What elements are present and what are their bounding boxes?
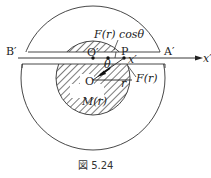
label-m-r: M(r) (81, 95, 107, 108)
label-x-prime-point: x′ (128, 53, 137, 66)
label-b-prime: B′ (6, 45, 17, 58)
leader-line-fcos2 (115, 52, 116, 58)
figure-caption: 図 5.24 (78, 160, 113, 171)
label-f-r-cos-theta: F(r) cosθ (93, 28, 144, 41)
label-theta: θ (104, 58, 111, 71)
figure-diagram: B′ A′ O′ P x′ x′ O θ r F(r) F(r) cosθ M(… (0, 0, 211, 178)
label-a-prime: A′ (163, 45, 175, 58)
label-o-prime: O′ (87, 46, 99, 59)
label-f-r: F(r) (135, 72, 157, 85)
label-x-prime-axis: x′ (203, 52, 211, 65)
arrow-head-icon (195, 56, 203, 61)
label-r: r (121, 77, 127, 90)
label-o: O (85, 75, 94, 88)
